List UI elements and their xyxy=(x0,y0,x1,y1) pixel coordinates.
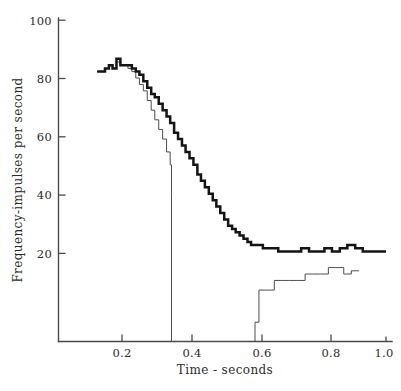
y-tick-label-100: 100 xyxy=(29,14,52,28)
figure-panel: 100 80 60 40 20 0.2 0.4 0.6 0.8 1.0 Time… xyxy=(0,0,401,391)
y-tick-label-80: 80 xyxy=(37,72,52,86)
chart-svg: 100 80 60 40 20 0.2 0.4 0.6 0.8 1.0 Time… xyxy=(0,0,401,391)
y-tick-label-20: 20 xyxy=(37,247,52,261)
x-tick-label-1-0: 1.0 xyxy=(374,346,393,360)
x-tick-label-0-2: 0.2 xyxy=(112,346,131,360)
data-trace-thin xyxy=(97,62,359,342)
x-tick-label-0-4: 0.4 xyxy=(182,346,201,360)
y-axis-title: Frequency-impulses per second xyxy=(11,77,25,282)
data-trace-thick xyxy=(97,59,386,252)
caption-strip xyxy=(0,381,401,391)
x-tick-label-0-6: 0.6 xyxy=(252,346,271,360)
y-tick-label-60: 60 xyxy=(37,130,52,144)
y-tick-label-40: 40 xyxy=(37,188,52,202)
x-tick-label-0-8: 0.8 xyxy=(321,346,340,360)
x-axis-title: Time - seconds xyxy=(177,363,273,377)
